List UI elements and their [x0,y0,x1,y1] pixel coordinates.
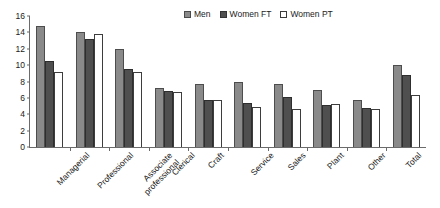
bar-group [109,16,149,147]
bar-women-pt [173,92,182,147]
bar-group [307,16,347,147]
x-tick-label: Other [366,151,388,173]
bar-group [149,16,189,147]
bar-women-ft [164,91,173,147]
bar-men [115,49,124,147]
x-label-cell: Professional [69,149,109,207]
bar-group [228,16,268,147]
bar-women-pt [411,95,420,147]
x-label-cell: Managerial [29,149,69,207]
bar-group [70,16,110,147]
x-tick-label: Craft [207,151,227,171]
x-axis-labels: ManagerialProfessionalAssociateprofessio… [29,149,425,207]
bar-men [274,84,283,147]
bar-women-ft [124,69,133,147]
bar-women-pt [54,72,63,147]
x-label-cell: Service [227,149,267,207]
bar-men [353,100,362,147]
bar-women-pt [292,109,301,147]
x-label-cell: Other [346,149,386,207]
x-label-cell: Associateprofessional [108,149,148,207]
bar-men [393,65,402,147]
bar-men [313,90,322,147]
bar-women-pt [133,72,142,147]
bar-women-pt [371,109,380,147]
bar-women-ft [402,75,411,147]
bar-women-pt [252,107,261,147]
bar-men [155,88,164,147]
x-tick-label: Plant [326,151,346,171]
x-label-cell: Total [385,149,425,207]
x-tick-label: Sales [287,151,309,173]
x-tick-label: Total [404,151,423,170]
bar-group [30,16,70,147]
bar-women-pt [331,104,340,147]
bar-groups [30,16,426,147]
bar-women-ft [85,39,94,147]
bar-women-pt [213,100,222,147]
bar-women-ft [45,61,54,147]
bar-men [36,26,45,147]
bar-women-ft [243,103,252,147]
x-label-cell: Sales [267,149,307,207]
bar-group [188,16,228,147]
bar-women-ft [204,100,213,147]
x-label-cell: Craft [187,149,227,207]
bar-group [268,16,308,147]
grouped-bar-chart: Men Women FT Women PT 0246810121416 Mana… [0,0,440,208]
bar-women-ft [362,108,371,147]
x-label-cell: Plant [306,149,346,207]
x-label-cell: Clerical [148,149,188,207]
bar-women-ft [283,97,292,147]
bar-men [195,84,204,147]
bar-group [386,16,426,147]
plot-area: 0246810121416 [29,16,426,148]
bar-women-ft [322,105,331,147]
bar-women-pt [94,34,103,147]
bar-group [347,16,387,147]
bar-men [76,32,85,147]
bar-men [234,82,243,147]
